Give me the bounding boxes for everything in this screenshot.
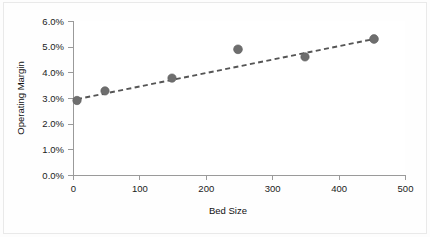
x-tick-label-2: 200 [198, 183, 214, 194]
y-tick-label-4: 4.0% [42, 67, 64, 78]
x-tick-label-3: 300 [265, 183, 281, 194]
y-tick-label-0: 0.0% [42, 170, 64, 181]
x-tick-label-5: 500 [398, 183, 414, 194]
y-tick-label-5: 5.0% [42, 41, 64, 52]
data-point [234, 45, 243, 54]
data-point [101, 87, 109, 95]
x-tick-label-4: 400 [331, 183, 347, 194]
data-point [168, 74, 176, 82]
y-axis-ticks [68, 22, 73, 176]
y-tick-label-1: 1.0% [42, 144, 64, 155]
plot-area-background [73, 21, 405, 175]
data-point [370, 35, 379, 44]
chart-container: 0.0% 1.0% 2.0% 3.0% 4.0% 5.0% 6.0% 0 100… [0, 0, 430, 237]
y-tick-label-3: 3.0% [42, 93, 64, 104]
x-tick-label-1: 100 [132, 183, 148, 194]
data-point [301, 53, 309, 61]
scatter-plot: 0.0% 1.0% 2.0% 3.0% 4.0% 5.0% 6.0% 0 100… [0, 0, 430, 237]
y-axis-title: Operating Margin [15, 61, 26, 134]
x-axis-title: Bed Size [209, 205, 247, 216]
y-tick-label-2: 2.0% [42, 118, 64, 129]
data-point [73, 96, 81, 104]
x-tick-label-0: 0 [71, 183, 76, 194]
y-tick-label-6: 6.0% [42, 16, 64, 27]
